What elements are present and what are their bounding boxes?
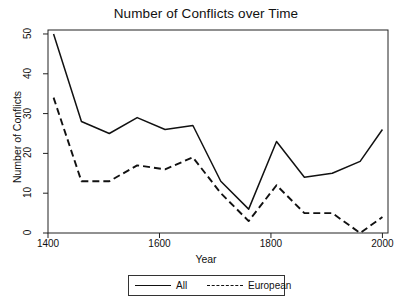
y-tick-label: 0 — [22, 220, 33, 246]
x-tick-label: 2000 — [362, 238, 402, 249]
legend-label: All — [176, 280, 187, 291]
chart-legend: AllEuropean — [128, 275, 285, 296]
x-tick-label: 1600 — [139, 238, 179, 249]
x-axis-label: Year — [0, 253, 412, 265]
legend-line-sample — [207, 285, 243, 286]
y-tick-label: 50 — [22, 20, 33, 46]
y-tick-label: 20 — [22, 140, 33, 166]
legend-entry-european: European — [207, 276, 291, 295]
legend-entry-all: All — [135, 276, 187, 295]
plot-frame — [48, 30, 388, 233]
y-tick-label: 30 — [22, 100, 33, 126]
chart-figure: Number of Conflicts over Time Number of … — [0, 0, 412, 305]
legend-line-sample — [135, 285, 171, 286]
y-tick-label: 40 — [22, 60, 33, 86]
x-tick-label: 1400 — [28, 238, 68, 249]
chart-title: Number of Conflicts over Time — [0, 6, 412, 21]
y-tick-label: 10 — [22, 180, 33, 206]
x-tick-label: 1800 — [251, 238, 291, 249]
legend-label: European — [248, 280, 291, 291]
